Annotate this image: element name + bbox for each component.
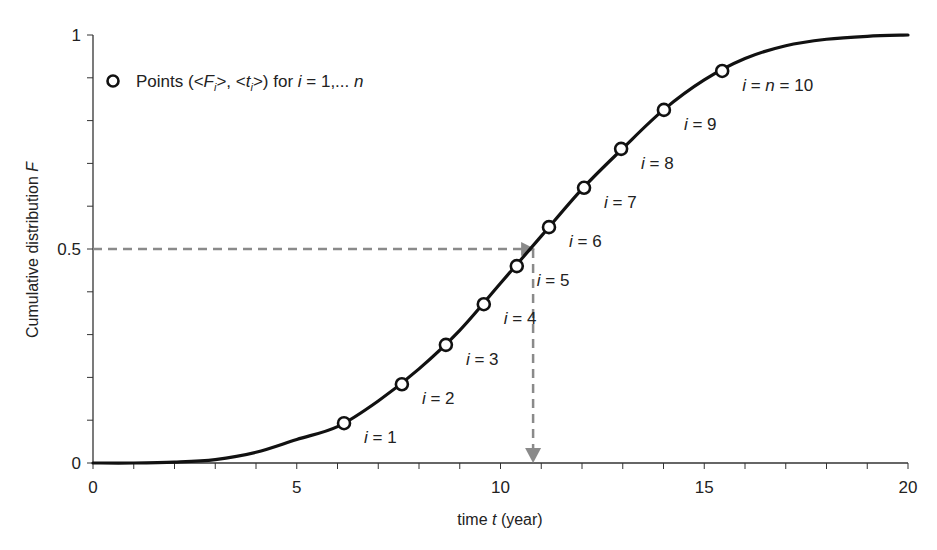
data-point-marker <box>543 221 555 233</box>
data-point-marker <box>615 143 627 155</box>
point-label: i = 9 <box>684 115 717 134</box>
data-point-marker <box>578 182 590 194</box>
point-label: i = 3 <box>466 350 499 369</box>
axes: 0510152000.51 <box>57 26 917 497</box>
point-label: i = 7 <box>604 193 637 212</box>
data-point-marker <box>440 339 452 351</box>
data-point-marker <box>511 260 523 272</box>
point-label: i = 1 <box>364 428 397 447</box>
x-tick-label: 10 <box>491 478 510 497</box>
cdf-chart: 0510152000.51 i = 1i = 2i = 3i = 4i = 5i… <box>0 0 937 550</box>
point-label: i = 6 <box>569 232 602 251</box>
x-tick-label: 5 <box>292 478 301 497</box>
x-axis-label: time t (year) <box>457 511 542 528</box>
y-tick-label: 0 <box>72 454 81 473</box>
legend-label: Points (<Fi>, <ti>) for i = 1,... n <box>136 72 363 93</box>
point-label: i = 8 <box>641 154 674 173</box>
data-point-marker <box>478 298 490 310</box>
data-point-marker <box>396 378 408 390</box>
x-tick-label: 0 <box>88 478 97 497</box>
y-axis-label: Cumulative distribution F <box>24 161 41 338</box>
point-label: i = 2 <box>422 389 455 408</box>
data-point-marker <box>338 417 350 429</box>
x-tick-label: 15 <box>695 478 714 497</box>
y-tick-label: 0.5 <box>57 240 81 259</box>
legend-marker-icon <box>108 76 119 87</box>
data-point-marker <box>716 65 728 77</box>
data-points: i = 1i = 2i = 3i = 4i = 5i = 6i = 7i = 8… <box>338 65 813 447</box>
point-label: i = n = 10 <box>742 76 813 95</box>
point-label: i = 5 <box>537 271 570 290</box>
legend: Points (<Fi>, <ti>) for i = 1,... n <box>108 72 364 93</box>
point-label: i = 4 <box>504 309 537 328</box>
data-point-marker <box>658 104 670 116</box>
y-tick-label: 1 <box>72 26 81 45</box>
arrowhead-icon <box>525 448 541 463</box>
x-tick-label: 20 <box>899 478 918 497</box>
